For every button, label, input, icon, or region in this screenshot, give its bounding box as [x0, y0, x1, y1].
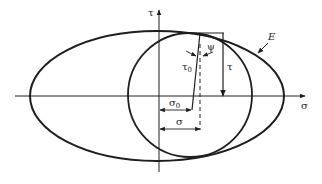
- tau0-subscript: 0: [188, 66, 192, 74]
- mohr-circle: [128, 33, 252, 157]
- sigma-label: σ: [176, 116, 183, 127]
- sigma0-label: σ0: [169, 97, 180, 110]
- psi-label: ψ: [207, 41, 215, 52]
- sigma0-subscript: 0: [176, 102, 180, 110]
- ellipse-label: E: [267, 31, 276, 42]
- tau0-label: τ0: [182, 61, 192, 74]
- tau-axis-label: τ: [148, 7, 154, 18]
- psi-arrow-left: [186, 51, 196, 56]
- psi-arrow-right: [203, 52, 213, 56]
- failure-envelope-diagram: τ σ E ψ τ0 τ σ0 σ: [0, 0, 322, 184]
- tau-label: τ: [227, 61, 233, 72]
- tau0-slanted-line: [192, 33, 200, 110]
- e-leader-arrow: [258, 43, 268, 53]
- sigma-axis-label: σ: [301, 100, 308, 111]
